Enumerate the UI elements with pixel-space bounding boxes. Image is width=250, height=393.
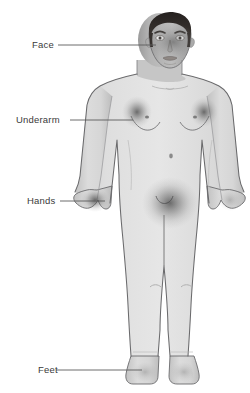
region-hand-left-highlight [81, 188, 109, 212]
region-hand-right-highlight [218, 189, 242, 211]
ear-right [190, 38, 194, 47]
region-underarm-right [190, 97, 218, 127]
region-foot-left-highlight [132, 362, 158, 382]
region-underarm-left [122, 96, 152, 128]
body-silhouette [74, 12, 246, 384]
navel-icon [169, 154, 173, 159]
callout-label-hands: Hands [27, 196, 55, 206]
region-groin-highlight [142, 177, 198, 229]
region-face-highlight [150, 23, 196, 61]
callout-label-feet: Feet [38, 365, 58, 375]
callout-label-underarm: Underarm [16, 115, 60, 125]
callout-label-face: Face [32, 40, 54, 50]
body-regions-diagram: Face Underarm Hands Feet [0, 0, 250, 393]
